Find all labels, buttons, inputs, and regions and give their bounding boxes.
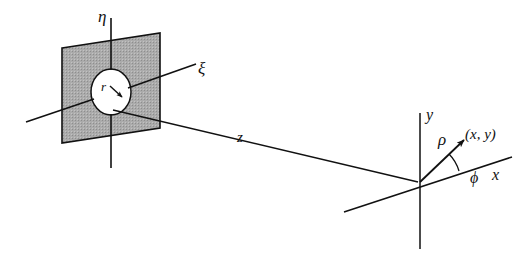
y-axis-label: y <box>426 107 433 123</box>
z-axis-label: z <box>237 130 243 145</box>
phi-label: ϕ <box>470 170 478 186</box>
xi-axis-label: ξ <box>198 60 205 77</box>
rho-label: ρ <box>438 131 446 148</box>
phi-angle-arc <box>449 154 459 171</box>
x-axis-line <box>344 157 512 212</box>
aperture-circle <box>91 69 131 115</box>
diagram-canvas: η ξ r z y x ρ ϕ (x, y) <box>0 0 527 270</box>
z-axis <box>113 110 418 182</box>
aperture-geometry-figure <box>0 0 527 270</box>
x-axis-label: x <box>492 167 499 183</box>
eta-axis-label: η <box>98 8 106 25</box>
aperture-radius-label: r <box>101 80 106 93</box>
observation-point-label: (x, y) <box>465 127 496 142</box>
